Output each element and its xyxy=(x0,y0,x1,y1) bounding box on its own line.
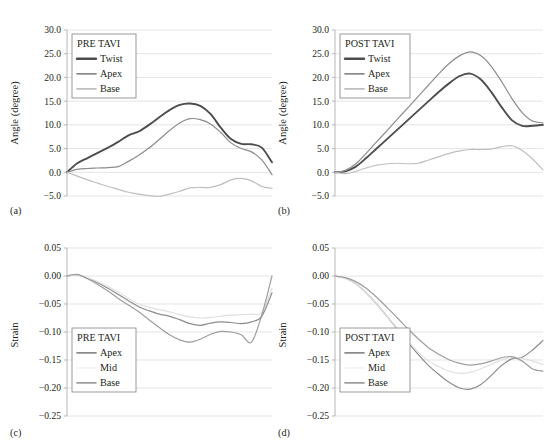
panel-d: 0.050.00−0.05−0.10−0.15−0.20−0.25StrainP… xyxy=(265,220,547,446)
y-axis-tick-label: −0.05 xyxy=(39,298,61,309)
y-axis-tick-label: 5.0 xyxy=(49,143,61,154)
legend: POST TAVITwistApexBase xyxy=(340,34,410,98)
y-axis-tick-label: −0.10 xyxy=(307,326,329,337)
y-axis-tick-label: 20.0 xyxy=(44,72,61,83)
y-axis-tick-label: −0.25 xyxy=(307,410,329,421)
series-line-apex xyxy=(67,118,272,174)
y-axis-tick-label: 25.0 xyxy=(44,48,61,59)
y-axis-tick-label: 10.0 xyxy=(312,119,329,130)
y-axis-label: Strain xyxy=(9,322,20,348)
legend: PRE TAVIApexMidBase xyxy=(72,328,136,392)
y-axis-tick-label: 0.05 xyxy=(44,242,61,253)
y-axis-tick-label: −0.10 xyxy=(39,326,61,337)
y-axis-tick-label: 15.0 xyxy=(44,96,61,107)
y-axis-tick-label: 0.00 xyxy=(312,270,329,281)
y-axis-label: Angle (degree) xyxy=(277,81,289,145)
panel-a: 30.025.020.015.010.05.00.0−5.0Angle (deg… xyxy=(0,0,274,223)
panel-b: 30.025.020.015.010.05.00.0−5.0Angle (deg… xyxy=(265,0,547,223)
y-axis-tick-label: −0.20 xyxy=(39,382,61,393)
y-axis-tick-label: −0.20 xyxy=(307,382,329,393)
legend-label-base: Base xyxy=(100,377,120,388)
y-axis-label: Strain xyxy=(277,322,288,348)
legend-title: POST TAVI xyxy=(345,332,395,343)
y-axis-tick-label: −0.15 xyxy=(307,354,329,365)
series-line-base xyxy=(67,172,272,196)
series-line-mid xyxy=(67,275,272,318)
legend-label-apex: Apex xyxy=(368,68,390,79)
series-group xyxy=(67,103,272,196)
legend-label-base: Base xyxy=(100,83,120,94)
y-axis-label: Angle (degree) xyxy=(9,81,21,145)
y-axis-tick-label: −5.0 xyxy=(312,190,330,201)
legend-label-apex: Apex xyxy=(100,68,122,79)
y-axis-tick-label: 0.0 xyxy=(317,167,329,178)
chart-panel-c: 0.050.00−0.05−0.10−0.15−0.20−0.25StrainP… xyxy=(0,220,274,446)
legend-title: PRE TAVI xyxy=(77,332,121,343)
legend-label-base: Base xyxy=(368,377,388,388)
y-axis-tick-label: −5.0 xyxy=(44,190,62,201)
y-axis-tick-label: 0.05 xyxy=(312,242,329,253)
y-axis-tick-label: 0.00 xyxy=(44,270,61,281)
y-axis-tick-label: 30.0 xyxy=(312,24,329,35)
figure-container: 30.025.020.015.010.05.00.0−5.0Angle (deg… xyxy=(0,0,547,446)
legend-label-twist: Twist xyxy=(368,53,391,64)
y-axis-tick-label: 25.0 xyxy=(312,48,329,59)
panel-caption: (c) xyxy=(10,427,21,439)
y-axis-tick-label: 5.0 xyxy=(317,143,329,154)
legend: POST TAVIApexMidBase xyxy=(340,328,410,392)
y-axis-tick-label: 20.0 xyxy=(312,72,329,83)
panel-caption: (d) xyxy=(278,427,290,439)
y-axis-tick-label: 0.0 xyxy=(49,167,61,178)
y-axis-tick-label: −0.15 xyxy=(39,354,61,365)
legend-label-twist: Twist xyxy=(100,53,123,64)
series-line-base xyxy=(335,146,543,174)
legend-title: POST TAVI xyxy=(345,38,395,49)
panel-c: 0.050.00−0.05−0.10−0.15−0.20−0.25StrainP… xyxy=(0,220,274,446)
y-axis-tick-label: −0.05 xyxy=(307,298,329,309)
y-axis: 30.025.020.015.010.05.00.0−5.0 xyxy=(312,24,335,201)
y-axis: 30.025.020.015.010.05.00.0−5.0 xyxy=(44,24,67,201)
y-axis-tick-label: 15.0 xyxy=(312,96,329,107)
chart-panel-b: 30.025.020.015.010.05.00.0−5.0Angle (deg… xyxy=(265,0,547,223)
series-line-twist xyxy=(67,103,272,172)
y-axis-tick-label: −0.25 xyxy=(39,410,61,421)
panel-caption: (a) xyxy=(10,205,21,217)
legend-label-mid: Mid xyxy=(100,362,117,373)
legend: PRE TAVITwistApexBase xyxy=(72,34,136,98)
y-axis: 0.050.00−0.05−0.10−0.15−0.20−0.25 xyxy=(39,242,67,421)
chart-panel-a: 30.025.020.015.010.05.00.0−5.0Angle (deg… xyxy=(0,0,274,223)
legend-label-mid: Mid xyxy=(368,362,385,373)
y-axis: 0.050.00−0.05−0.10−0.15−0.20−0.25 xyxy=(307,242,335,421)
legend-label-apex: Apex xyxy=(368,347,390,358)
legend-title: PRE TAVI xyxy=(77,38,121,49)
chart-panel-d: 0.050.00−0.05−0.10−0.15−0.20−0.25StrainP… xyxy=(265,220,547,446)
y-axis-tick-label: 30.0 xyxy=(44,24,61,35)
panel-caption: (b) xyxy=(278,205,290,217)
legend-label-base: Base xyxy=(368,83,388,94)
legend-label-apex: Apex xyxy=(100,347,122,358)
y-axis-tick-label: 10.0 xyxy=(44,119,61,130)
series-line-apex xyxy=(67,275,272,325)
